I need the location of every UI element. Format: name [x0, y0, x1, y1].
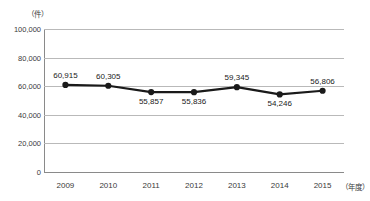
- data-point-marker: [191, 89, 197, 95]
- chart-screenshot: ■ （件） 100,00080,00060,00040,00020,000020…: [0, 0, 370, 201]
- data-point-marker: [148, 89, 154, 95]
- y-axis-tick-label: 60,000: [0, 82, 41, 91]
- y-axis-tick-label: 0: [0, 168, 41, 177]
- x-axis-tick-label: 2013: [214, 181, 260, 190]
- data-point-label: 59,345: [209, 73, 265, 82]
- data-point-marker: [234, 84, 240, 90]
- y-axis-tick-label: 80,000: [0, 54, 41, 63]
- data-point-label: 56,806: [295, 77, 351, 86]
- data-point-marker: [277, 91, 283, 97]
- x-axis-tick-label: 2011: [128, 181, 174, 190]
- data-point-marker: [319, 88, 325, 94]
- y-axis-tick-label: 40,000: [0, 111, 41, 120]
- data-point-label: 55,836: [166, 97, 222, 106]
- y-axis-tick-label: 20,000: [0, 139, 41, 148]
- x-axis-tick-label: 2012: [171, 181, 217, 190]
- x-axis-unit-label: （年度）: [341, 181, 369, 192]
- y-axis-tick-label: 100,000: [0, 25, 41, 34]
- data-point-marker: [62, 82, 68, 88]
- x-axis-tick-label: 2015: [300, 181, 346, 190]
- data-point-marker: [105, 83, 111, 89]
- x-axis-tick-label: 2009: [42, 181, 88, 190]
- data-point-label: 54,246: [252, 99, 308, 108]
- x-axis-tick-label: 2010: [85, 181, 131, 190]
- data-point-label: 60,305: [80, 72, 136, 81]
- x-axis-tick-label: 2014: [257, 181, 303, 190]
